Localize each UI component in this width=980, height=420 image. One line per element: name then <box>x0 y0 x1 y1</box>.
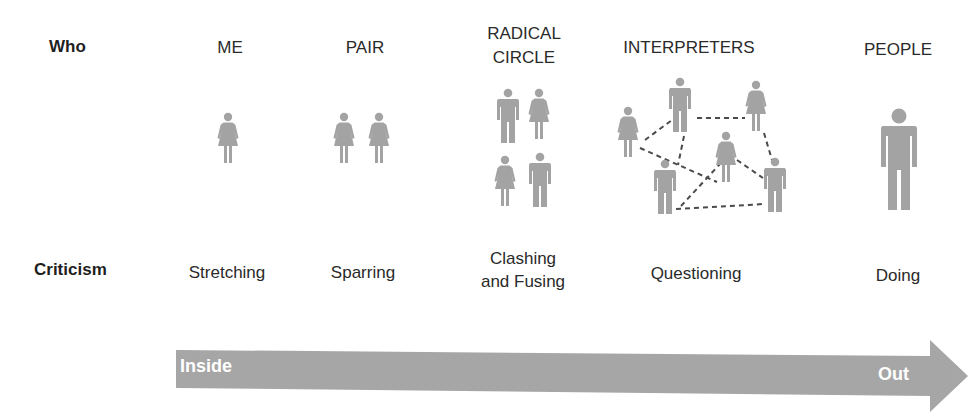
person-male-icon <box>497 89 519 143</box>
person-female-icon <box>716 132 737 182</box>
person-female-icon <box>618 107 639 157</box>
person-female-icon <box>218 113 239 163</box>
person-male-icon <box>529 153 551 207</box>
diagram-art <box>0 0 980 420</box>
person-female-icon <box>529 89 550 139</box>
arrow-label-out: Out <box>878 364 909 385</box>
person-female-icon <box>334 113 355 163</box>
person-male-icon <box>764 158 786 212</box>
person-female-icon <box>495 156 516 206</box>
person-female-icon <box>746 81 767 131</box>
person-male-icon <box>654 160 676 214</box>
person-male-large-icon <box>881 109 917 211</box>
person-female-icon <box>369 113 390 163</box>
arrow-label-inside: Inside <box>180 356 232 377</box>
person-male-icon <box>669 78 691 132</box>
inside-out-arrow <box>176 340 968 412</box>
